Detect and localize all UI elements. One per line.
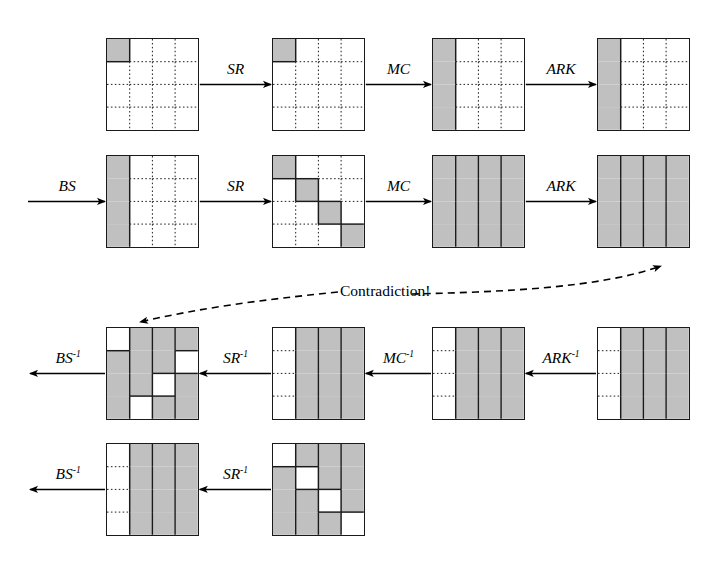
state-cell [107,156,130,179]
state-before-bs-inverse-row-4-backward-bottom-0 [106,443,199,536]
state-cell [456,373,479,396]
state-cell [318,107,341,130]
state-cell [296,467,319,490]
state-cell [273,351,296,374]
state-cell [273,512,296,535]
state-cell [107,107,130,130]
state-cell [130,373,153,396]
state-cell [341,62,364,85]
op-label-text: SR [227,177,244,194]
state-cell [273,224,296,247]
state-cell [296,156,319,179]
state-cell [296,351,319,374]
state-cell [666,156,689,179]
op-label-superscript: -1 [572,349,580,359]
op-label-text: ARK [546,177,575,194]
state-cell [296,62,319,85]
state-cell [175,62,198,85]
state-cell [152,156,175,179]
state-cell [175,396,198,419]
state-cell [501,107,524,130]
state-cell [478,328,501,351]
state-cell [152,396,175,419]
state-cell [130,467,153,490]
state-cell [107,201,130,224]
state-cell [456,62,479,85]
state-cell [341,396,364,419]
state-cell [175,351,198,374]
state-cell [296,224,319,247]
state-before-sr-inverse-row-3-backward-top-1 [272,327,365,420]
state-cell [598,224,621,247]
state-cell [598,179,621,202]
state-cell [152,224,175,247]
state-cell [456,156,479,179]
state-cell [175,39,198,62]
state-cell [621,84,644,107]
state-cell [643,373,666,396]
state-cell [478,396,501,419]
state-cell [643,107,666,130]
state-cell [152,328,175,351]
state-cell [621,179,644,202]
state-cell [107,512,130,535]
op-label-text: BS [59,177,76,194]
state-cell [666,328,689,351]
state-cell [598,373,621,396]
state-cell [318,201,341,224]
state-cell [433,396,456,419]
state-cell-grid [433,156,524,247]
state-cell [621,328,644,351]
state-before-ark-inverse-row-3-backward-top-3 [597,327,690,420]
state-cell [107,373,130,396]
state-cell [318,156,341,179]
op-label-text: SR [223,466,240,483]
state-cell [478,179,501,202]
state-cell-grid [107,156,198,247]
state-cell [152,39,175,62]
state-cell [643,351,666,374]
state-cell [621,373,644,396]
state-cell [130,489,153,512]
state-cell [107,467,130,490]
state-cell [478,373,501,396]
state-cell [318,489,341,512]
op-label-text: ARK [542,350,571,367]
state-cell [107,39,130,62]
state-cell-grid [273,444,364,535]
state-cell [341,328,364,351]
state-after-ark-row-1-forward-top-3 [597,38,690,131]
op-label-text: BS [56,466,73,483]
state-cell [643,62,666,85]
state-cell [318,179,341,202]
state-cell [273,489,296,512]
state-cell-grid [433,328,524,419]
state-cell [598,396,621,419]
op-label-text: BS [56,350,73,367]
state-cell [598,156,621,179]
state-cell [341,351,364,374]
op-label-op-ark-r2: ARK [546,177,575,195]
state-cell [478,39,501,62]
state-cell [318,512,341,535]
state-cell [501,179,524,202]
state-after-bs-row-2-forward-bottom-0 [106,155,199,248]
state-cell [273,39,296,62]
state-cell [175,328,198,351]
state-after-ark-row-2-forward-bottom-3 [597,155,690,248]
state-cell [296,107,319,130]
state-before-bs-inverse-row-3-backward-top-0 [106,327,199,420]
state-cell [501,396,524,419]
state-cell [130,84,153,107]
state-cell [107,328,130,351]
state-cell [130,396,153,419]
op-label-op-bs-inv-r4: BS-1 [56,465,81,483]
state-cell [296,444,319,467]
state-cell [456,107,479,130]
state-cell [666,373,689,396]
state-cell [501,201,524,224]
state-cell [175,107,198,130]
state-cell [456,201,479,224]
state-cell [433,39,456,62]
state-cell [478,351,501,374]
